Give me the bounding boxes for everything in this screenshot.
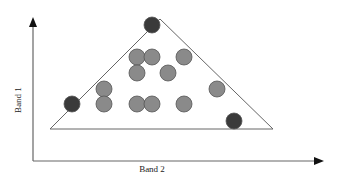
y-axis-label: Band 1 bbox=[13, 87, 23, 113]
endmember-scatter-diagram: Band 2 Band 1 bbox=[0, 0, 337, 185]
pixel-point bbox=[209, 81, 225, 97]
endmember-point bbox=[144, 17, 160, 33]
pixel-point bbox=[144, 49, 160, 65]
pixel-point bbox=[129, 65, 145, 81]
pixel-point bbox=[129, 49, 145, 65]
endmember-point bbox=[226, 113, 242, 129]
pixel-point bbox=[96, 81, 112, 97]
endmember-point bbox=[64, 96, 80, 112]
x-axis-label: Band 2 bbox=[139, 164, 165, 174]
pixel-point bbox=[129, 96, 145, 112]
axes bbox=[29, 17, 324, 165]
pixel-point bbox=[96, 96, 112, 112]
y-axis-arrow-icon bbox=[29, 17, 37, 27]
pixel-point bbox=[176, 96, 192, 112]
pixel-point bbox=[176, 49, 192, 65]
pixel-point bbox=[160, 65, 176, 81]
pixel-points bbox=[96, 49, 225, 112]
x-axis-arrow-icon bbox=[314, 157, 324, 165]
pixel-point bbox=[144, 96, 160, 112]
